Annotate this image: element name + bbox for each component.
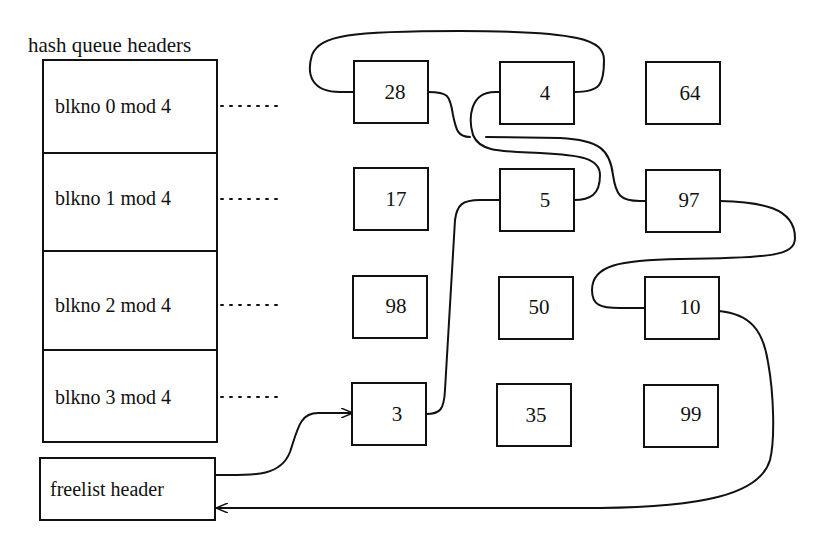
block-4: 4 [540, 81, 551, 105]
block-10: 10 [680, 295, 701, 319]
block-64: 64 [680, 81, 702, 105]
link-freelist-to-3 [215, 413, 352, 475]
link-28-to-97 [428, 92, 470, 137]
link-3-to-5 [426, 200, 500, 414]
hash-header-0: blkno 0 mod 4 [55, 95, 171, 117]
buffer-cache-diagram: hash queue headers blkno 0 mod 4 blkno 1… [0, 0, 816, 549]
buffer-blocks [352, 61, 720, 447]
hash-header-1: blkno 1 mod 4 [55, 187, 171, 209]
freelist-links [215, 31, 795, 508]
freelist-header-label: freelist header [50, 478, 164, 500]
hash-queue-headers: blkno 0 mod 4 blkno 1 mod 4 blkno 2 mod … [43, 60, 283, 442]
block-97: 97 [679, 188, 700, 212]
link-97-to-10 [592, 201, 795, 308]
block-99: 99 [681, 402, 702, 426]
diagram-title: hash queue headers [28, 33, 191, 57]
freelist-header: freelist header [40, 458, 215, 520]
block-50: 50 [529, 295, 550, 319]
block-5: 5 [540, 188, 551, 212]
block-98: 98 [386, 294, 407, 318]
block-3: 3 [392, 402, 403, 426]
block-17: 17 [386, 187, 407, 211]
hash-header-2: blkno 2 mod 4 [55, 294, 171, 316]
block-28: 28 [385, 80, 406, 104]
link-5-to-4 [471, 92, 600, 200]
dotted-leaders [221, 106, 283, 397]
block-labels: 28 4 64 17 5 97 98 50 10 3 35 99 [385, 80, 702, 427]
block-35: 35 [526, 403, 547, 427]
hash-header-3: blkno 3 mod 4 [55, 386, 171, 408]
